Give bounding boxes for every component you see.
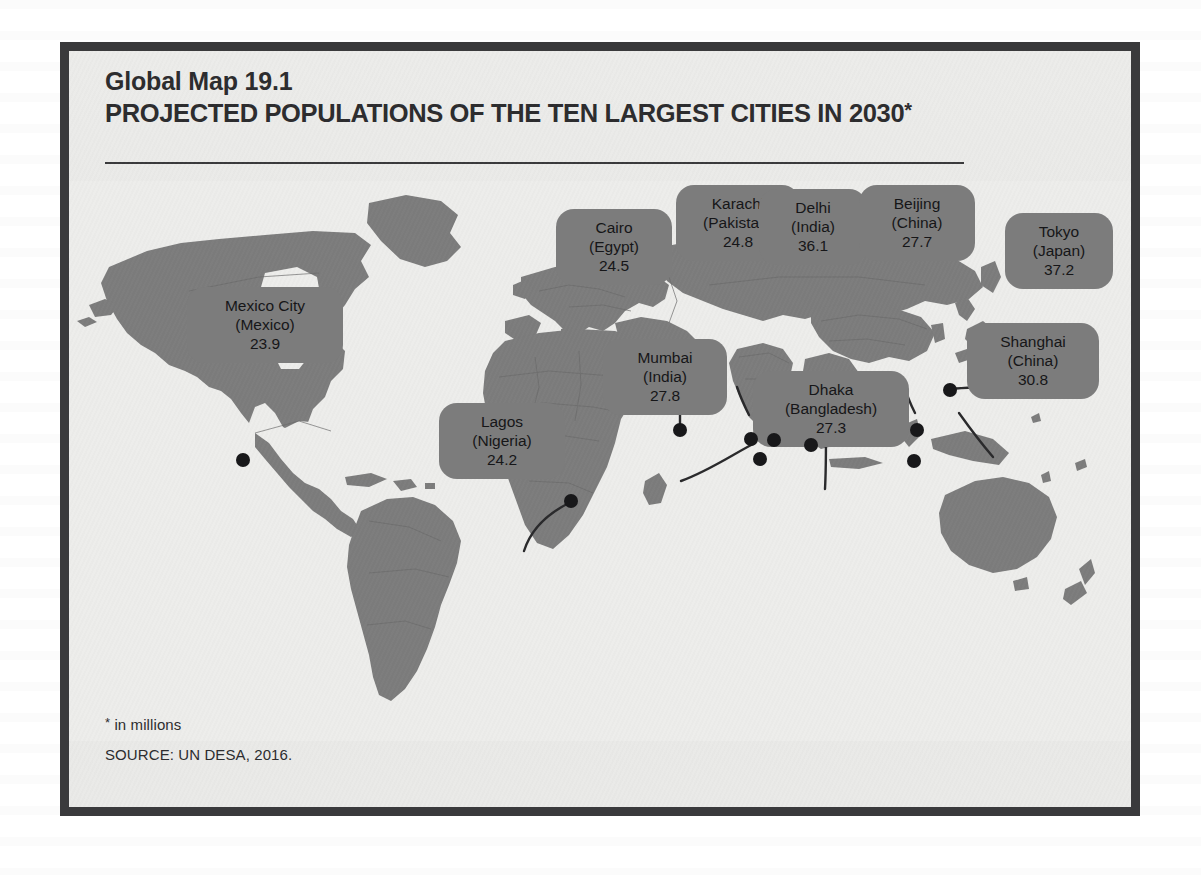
callout-city-value: 24.5 [569,256,659,275]
figure-panel: Global Map 19.1 PROJECTED POPULATIONS OF… [69,51,1131,807]
callout-city-country: (China) [872,213,962,232]
callout-city-country: (India) [772,217,854,236]
callout-city-country: (Japan) [1018,241,1100,260]
callout-beijing[interactable]: Beijing (China) 27.7 [859,185,975,261]
callout-cairo[interactable]: Cairo (Egypt) 24.5 [556,209,672,285]
callout-city-country: (Egypt) [569,237,659,256]
callout-city-country: (Nigeria) [452,431,552,450]
callout-city-name: Dhaka [766,380,896,399]
callout-city-name: Mexico City [200,296,330,315]
callout-city-name: Delhi [772,198,854,217]
callout-mexico-city[interactable]: Mexico City (Mexico) 23.9 [187,287,343,363]
leader-line-mumbai [681,443,755,481]
callout-tokyo[interactable]: Tokyo (Japan) 37.2 [1005,213,1113,289]
callout-city-value: 23.9 [200,334,330,353]
callout-city-value: 27.3 [766,418,896,437]
leader-lines [69,51,1131,807]
callout-city-country: (Mexico) [200,315,330,334]
callout-city-country: (Bangladesh) [766,399,896,418]
callout-city-name: Shanghai [980,332,1086,351]
callout-city-name: Lagos [452,412,552,431]
callout-city-name: Cairo [569,218,659,237]
callout-dhaka[interactable]: Dhaka (Bangladesh) 27.3 [753,371,909,447]
callout-mumbai[interactable]: Mumbai (India) 27.8 [603,339,727,415]
callout-city-value: 24.2 [452,450,552,469]
callout-delhi[interactable]: Delhi (India) 36.1 [759,189,867,265]
callout-city-country: (China) [980,351,1086,370]
callout-city-name: Tokyo [1018,222,1100,241]
callout-city-value: 30.8 [980,370,1086,389]
leader-line-shanghai [959,413,993,457]
callout-city-name: Mumbai [616,348,714,367]
callout-city-value: 27.8 [616,386,714,405]
callout-city-country: (India) [616,367,714,386]
leader-line-lagos [524,503,569,551]
callout-shanghai[interactable]: Shanghai (China) 30.8 [967,323,1099,399]
leader-line-karachi [737,387,749,415]
callout-city-value: 37.2 [1018,260,1100,279]
callout-city-value: 27.7 [872,232,962,251]
callout-city-name: Beijing [872,194,962,213]
callout-lagos[interactable]: Lagos (Nigeria) 24.2 [439,403,565,479]
callout-city-value: 36.1 [772,236,854,255]
figure-frame: Global Map 19.1 PROJECTED POPULATIONS OF… [60,42,1140,816]
